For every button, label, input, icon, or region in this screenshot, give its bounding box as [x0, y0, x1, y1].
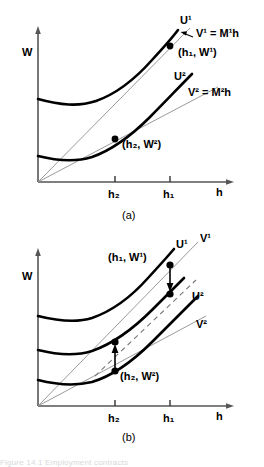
ray-v1-b: [38, 242, 198, 406]
point-label-h2-w2-a: (h₂, W²): [122, 138, 161, 150]
ray-label-v1-b: V¹: [200, 232, 211, 244]
dashed-isoprofit-line-b: [95, 280, 196, 376]
point-h1-w1-a: [167, 43, 174, 50]
curve-label-u2-a: U²: [174, 70, 186, 82]
panel-a-plot: W h h₂ h₁ U¹ U² V¹ = M¹h V² = M²h (h₁, W…: [0, 0, 264, 232]
curve-label-u1-b: U¹: [176, 238, 188, 250]
figure-container: W h h₂ h₁ U¹ U² V¹ = M¹h V² = M²h (h₁, W…: [0, 0, 264, 467]
curve-u-middle-b: [38, 278, 184, 354]
x-tick-label-h1-b: h₁: [163, 412, 175, 424]
panel-a: W h h₂ h₁ U¹ U² V¹ = M¹h V² = M²h (h₁, W…: [0, 0, 264, 232]
ray-label-v1-a: V¹ = M¹h: [196, 27, 239, 39]
curve-u1-a: [38, 30, 178, 105]
y-axis-arrowhead-a: [35, 26, 41, 34]
point-label-h1-w1-a: (h₁, W¹): [178, 46, 217, 58]
point-label-h2-w2-b: (h₂, W²): [120, 370, 159, 382]
ray-v2-b: [38, 316, 206, 406]
point-h2-w2-a: [112, 136, 119, 143]
x-axis-label-a: h: [216, 186, 223, 198]
x-axis-arrowhead-a: [226, 179, 234, 185]
arrow-up-h2-b: [112, 344, 119, 369]
x-tick-label-h2-a: h₂: [108, 188, 120, 200]
curve-u2-a: [38, 74, 192, 160]
x-tick-label-h2-b: h₂: [108, 412, 120, 424]
curve-label-u2-b: U²: [192, 290, 204, 302]
y-axis-arrowhead-b: [35, 248, 41, 256]
ray-label-v2-a: V² = M²h: [188, 86, 231, 98]
panel-b-plot: W h h₂ h₁ U¹ U² V¹ V² (h₁, W¹) (h₂, W²) …: [0, 228, 264, 450]
panel-tag-b: (b): [122, 431, 135, 443]
panel-tag-a: (a): [122, 209, 135, 221]
x-ticks-group-a: [115, 176, 170, 182]
figure-caption-partial: Figure 14.1 Employment contracts: [0, 458, 264, 467]
x-axis-arrowhead-b: [226, 403, 234, 409]
point-label-h1-w1-b: (h₁, W¹): [108, 251, 147, 263]
x-axis-label-b: h: [216, 410, 223, 422]
y-axis-label-a: W: [22, 46, 33, 58]
y-axis-label-b: W: [22, 270, 33, 282]
ray-label-v2-b: V²: [196, 318, 207, 330]
curve-label-u1-a: U¹: [180, 14, 192, 26]
x-ticks-group-b: [115, 400, 170, 406]
ray-v2-a: [38, 87, 218, 182]
panel-b: W h h₂ h₁ U¹ U² V¹ V² (h₁, W¹) (h₂, W²) …: [0, 228, 264, 450]
x-tick-label-h1-a: h₁: [163, 188, 175, 200]
